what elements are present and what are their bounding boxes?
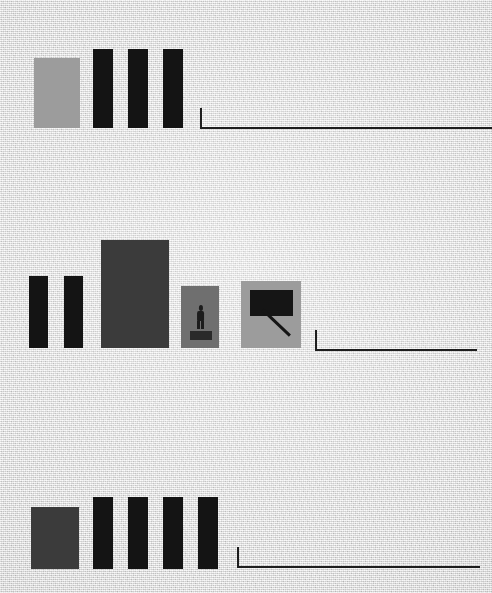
callout-icon [250, 290, 293, 334]
person-icon [195, 305, 206, 329]
person-torso-icon [197, 311, 205, 321]
swatch-light-1 [34, 58, 80, 128]
bar-7 [128, 497, 148, 569]
person-leg-left-icon [197, 321, 200, 329]
callout-tail-icon [263, 310, 291, 336]
bar-3 [163, 49, 183, 128]
composition-canvas [0, 0, 492, 593]
rule-middle [315, 330, 477, 351]
rule-top-tick [200, 108, 202, 129]
bar-6 [93, 497, 113, 569]
panel-large [101, 240, 169, 348]
bar-1 [93, 49, 113, 128]
rule-top-baseline [200, 127, 492, 129]
rule-top [200, 108, 492, 129]
swatch-dark-1 [31, 507, 79, 569]
bar-8 [163, 497, 183, 569]
bar-2 [128, 49, 148, 128]
bar-9 [198, 497, 218, 569]
bar-5 [64, 276, 83, 348]
person-leg-right-icon [201, 321, 204, 329]
rule-bottom [237, 547, 480, 568]
person-head-icon [198, 305, 202, 311]
rule-middle-baseline [315, 349, 477, 351]
rule-bottom-baseline [237, 566, 480, 568]
rule-middle-tick [315, 330, 317, 351]
bar-4 [29, 276, 48, 348]
rule-bottom-tick [237, 547, 239, 568]
person-base-icon [190, 331, 212, 340]
